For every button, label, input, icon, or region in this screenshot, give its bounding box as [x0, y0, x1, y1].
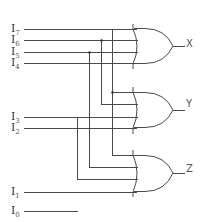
or-gate-x: X [133, 24, 193, 69]
gate-z-body [134, 156, 173, 192]
junction-dot [88, 51, 91, 54]
gate-x-back [133, 24, 137, 69]
gate-x-body [134, 29, 173, 64]
output-label-z: Z [186, 163, 193, 174]
gate-z-back [133, 150, 137, 197]
junction-dot [111, 91, 114, 94]
or-gate-y: Y [133, 87, 193, 134]
input-wires [24, 30, 138, 212]
output-label-x: X [186, 38, 193, 49]
input-labels: I7 I6 I5 I4 I3 I2 I1 I0 [11, 22, 20, 219]
input-label-i0: I0 [11, 204, 20, 219]
gate-y-body [134, 93, 173, 128]
or-gate-z: Z [133, 150, 193, 197]
input-label-i1: I1 [11, 185, 20, 200]
encoder-circuit-diagram: I7 I6 I5 I4 I3 I2 I1 I0 [0, 0, 203, 222]
gate-y-back [133, 87, 137, 134]
output-label-y: Y [185, 98, 193, 109]
bus-wires [77, 29, 138, 180]
junction-dot [100, 39, 103, 42]
